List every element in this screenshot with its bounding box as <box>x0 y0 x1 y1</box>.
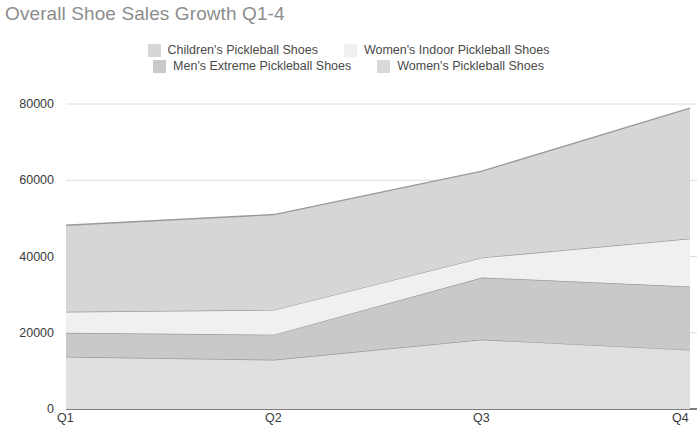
y-tick-label: 0 <box>47 403 54 416</box>
x-tick-label: Q4 <box>672 412 689 425</box>
x-tick-label: Q3 <box>473 412 490 425</box>
y-tick-label: 20000 <box>19 327 54 340</box>
plot-area <box>0 0 697 430</box>
stacked-area-chart: Overall Shoe Sales Growth Q1-4 Children'… <box>0 0 697 430</box>
y-tick-label: 80000 <box>19 98 54 111</box>
x-tick-label: Q2 <box>265 412 282 425</box>
y-tick-label: 40000 <box>19 250 54 263</box>
x-tick-label: Q1 <box>57 412 74 425</box>
plot-svg <box>0 0 697 430</box>
y-tick-label: 60000 <box>19 174 54 187</box>
y-axis: 020000400006000080000 <box>0 0 54 430</box>
